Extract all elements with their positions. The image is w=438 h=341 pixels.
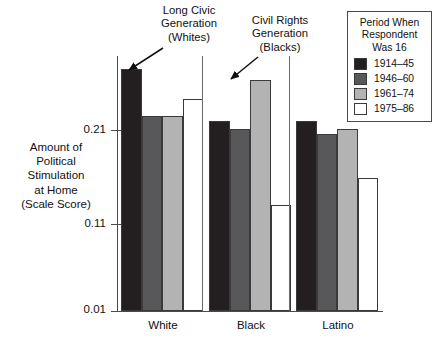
bar-white-1961-74 <box>162 116 183 311</box>
legend-swatch-icon-1946-60 <box>354 73 367 85</box>
group-separator-2 <box>289 56 290 311</box>
bar-latino-1975-86 <box>358 178 379 311</box>
legend-item-1975-86: 1975–86 <box>354 103 427 115</box>
y-axis-caption-line-5: (Scale Score) <box>6 197 106 211</box>
bar-black-1961-74 <box>250 80 271 311</box>
y-tick-label-1: 0.11 <box>84 218 106 230</box>
y-tick-mark-2 <box>111 311 123 312</box>
plot-area <box>117 56 383 311</box>
bar-latino-1961-74 <box>337 129 358 311</box>
annotation-rights-line-2: Generation <box>232 27 328 40</box>
legend-label-1946-60: 1946–60 <box>374 73 414 85</box>
y-axis-caption-line-4: at Home <box>6 183 106 197</box>
x-axis-line <box>117 311 383 312</box>
legend-swatch-icon-1961-74 <box>354 88 367 100</box>
bar-black-1914-45 <box>209 121 230 311</box>
y-axis-caption-line-1: Amount of <box>6 140 106 154</box>
legend-swatch-icon-1914-45 <box>354 58 367 70</box>
annotation-rights-line-3: (Blacks) <box>232 41 328 54</box>
x-label-latino: Latino <box>298 319 378 331</box>
y-axis-caption-line-2: Political <box>6 154 106 168</box>
annotation-civic-line-3: (Whites) <box>139 31 239 44</box>
legend-label-1961-74: 1961–74 <box>374 88 414 100</box>
annotation-rights-line-1: Civil Rights <box>232 14 328 27</box>
bar-white-1975-86 <box>183 99 204 311</box>
bar-black-1946-60 <box>230 129 251 311</box>
legend-item-1914-45: 1914–45 <box>354 58 427 70</box>
y-tick-label-2: 0.01 <box>84 304 106 316</box>
y-tick-label-0: 0.21 <box>84 124 106 136</box>
annotation-long-civic-generation: Long Civic Generation (Whites) <box>139 4 239 44</box>
bar-white-1946-60 <box>142 116 163 311</box>
bar-black-1975-86 <box>271 205 292 311</box>
legend-title-line-1: Period When <box>352 17 427 29</box>
legend-item-1946-60: 1946–60 <box>354 73 427 85</box>
bar-white-1914-45 <box>121 69 142 311</box>
x-label-white: White <box>123 319 203 331</box>
group-separator-1 <box>202 56 203 311</box>
y-axis-caption: Amount of Political Stimulation at Home … <box>6 140 106 211</box>
annotation-civic-line-2: Generation <box>139 17 239 30</box>
x-label-black: Black <box>211 319 291 331</box>
bar-chart-figure: Amount of Political Stimulation at Home … <box>0 0 438 341</box>
y-axis-caption-line-3: Stimulation <box>6 168 106 182</box>
legend-label-1914-45: 1914–45 <box>374 58 414 70</box>
annotation-civic-line-1: Long Civic <box>139 4 239 17</box>
legend-label-1975-86: 1975–86 <box>374 103 414 115</box>
legend-title-line-2: Respondent <box>352 29 427 41</box>
legend-item-1961-74: 1961–74 <box>354 88 427 100</box>
bar-latino-1914-45 <box>296 121 317 311</box>
legend-swatch-icon-1975-86 <box>354 103 367 115</box>
legend-title: Period When Respondent Was 16 <box>352 17 427 54</box>
annotation-civil-rights-generation: Civil Rights Generation (Blacks) <box>232 14 328 54</box>
legend-title-line-3: Was 16 <box>352 42 427 54</box>
legend-panel: Period When Respondent Was 16 1914–45 19… <box>347 11 432 122</box>
bar-latino-1946-60 <box>317 134 338 311</box>
